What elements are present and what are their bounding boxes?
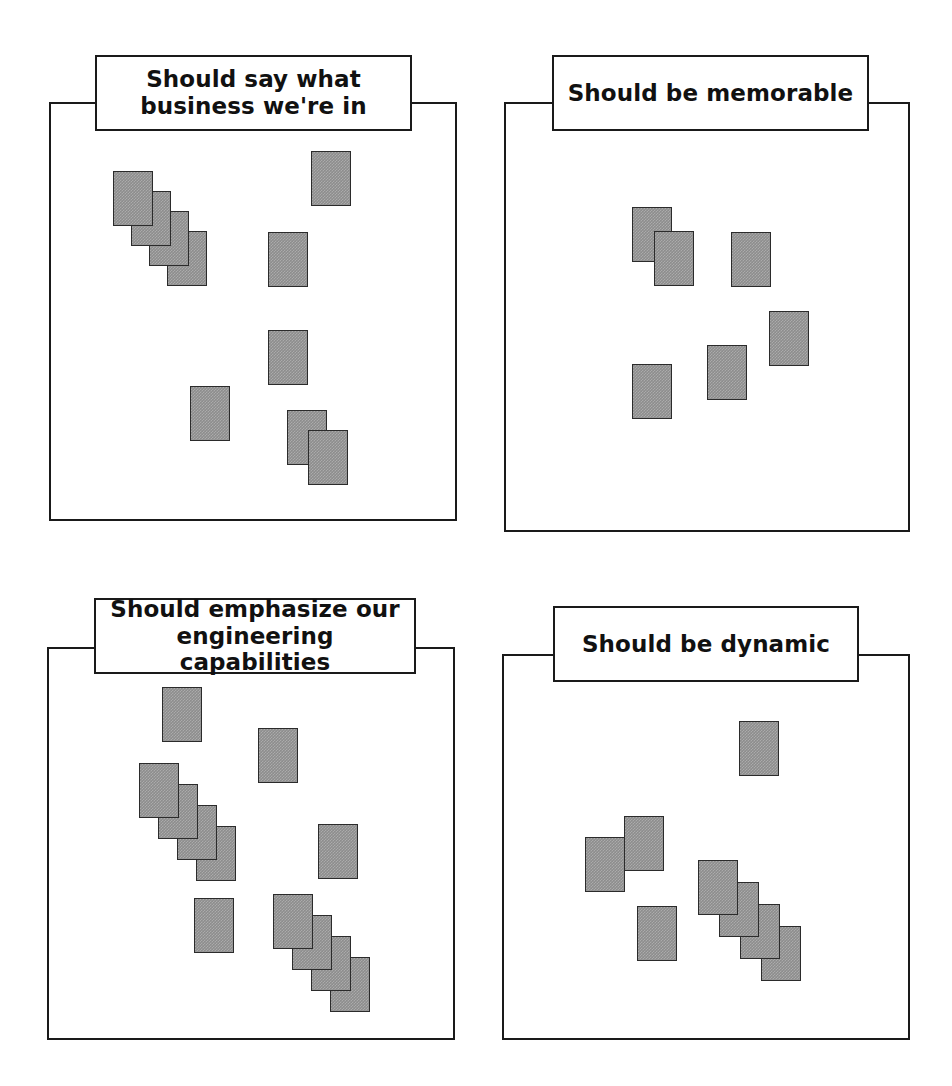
sticky-note[interactable] (637, 906, 677, 961)
affinity-diagram-board: Should say what business we're inShould … (0, 0, 952, 1086)
panel-title-box: Should be dynamic (553, 606, 859, 682)
panel-4: Should be dynamic (0, 0, 952, 1086)
panel-title-box: Should be memorable (552, 55, 869, 131)
sticky-note[interactable] (698, 860, 738, 915)
panel-title-text: Should emphasize our engineering capabil… (96, 596, 414, 676)
panel-title-box: Should say what business we're in (95, 55, 412, 131)
sticky-note[interactable] (311, 151, 351, 206)
sticky-note[interactable] (731, 232, 771, 287)
sticky-note[interactable] (585, 837, 625, 892)
sticky-note[interactable] (139, 763, 179, 818)
sticky-note[interactable] (739, 721, 779, 776)
sticky-note[interactable] (624, 816, 664, 871)
sticky-note[interactable] (268, 232, 308, 287)
panel-frame (0, 0, 952, 1086)
panel-1: Should say what business we're in (0, 0, 952, 1086)
sticky-note[interactable] (769, 311, 809, 366)
sticky-note[interactable] (273, 894, 313, 949)
sticky-note[interactable] (113, 171, 153, 226)
sticky-note[interactable] (318, 824, 358, 879)
sticky-note[interactable] (258, 728, 298, 783)
panel-title-text: Should be memorable (558, 80, 864, 107)
panel-frame (0, 0, 952, 1086)
sticky-note[interactable] (162, 687, 202, 742)
sticky-note[interactable] (632, 364, 672, 419)
panel-frame (0, 0, 952, 1086)
panel-title-text: Should say what business we're in (130, 66, 377, 119)
sticky-note[interactable] (190, 386, 230, 441)
panel-2: Should be memorable (0, 0, 952, 1086)
sticky-note[interactable] (707, 345, 747, 400)
panel-title-text: Should be dynamic (572, 631, 840, 658)
sticky-note[interactable] (654, 231, 694, 286)
sticky-note[interactable] (268, 330, 308, 385)
panel-3: Should emphasize our engineering capabil… (0, 0, 952, 1086)
sticky-note[interactable] (308, 430, 348, 485)
panel-frame (0, 0, 952, 1086)
panel-title-box: Should emphasize our engineering capabil… (94, 598, 416, 674)
sticky-note[interactable] (194, 898, 234, 953)
